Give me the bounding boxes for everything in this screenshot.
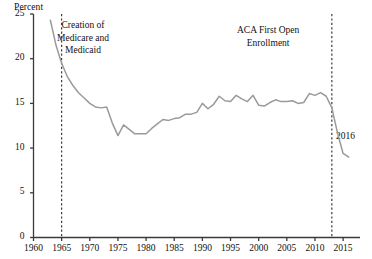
x-tick-label: 1975 [103,243,133,253]
y-tick-label: 15 [7,97,25,107]
x-tick-label: 1965 [47,243,77,253]
x-tick-label: 2000 [244,243,274,253]
y-tick-label: 5 [7,186,25,196]
x-tick-label: 1995 [216,243,246,253]
uninsured-rate-chart: Percent Creation of Medicare and Medicai… [0,0,372,259]
plot-area [0,0,372,259]
y-tick-label: 0 [7,231,25,241]
y-tick-label: 10 [7,142,25,152]
x-tick-label: 1980 [131,243,161,253]
y-tick-label: 20 [7,52,25,62]
x-tick-label: 1970 [75,243,105,253]
x-tick-label: 1960 [19,243,49,253]
data-series-line [50,20,348,157]
x-tick-label: 2015 [328,243,358,253]
x-tick-label: 2010 [300,243,330,253]
x-tick-label: 1990 [187,243,217,253]
x-tick-label: 1985 [159,243,189,253]
x-tick-label: 2005 [272,243,302,253]
y-tick-label: 25 [7,8,25,18]
